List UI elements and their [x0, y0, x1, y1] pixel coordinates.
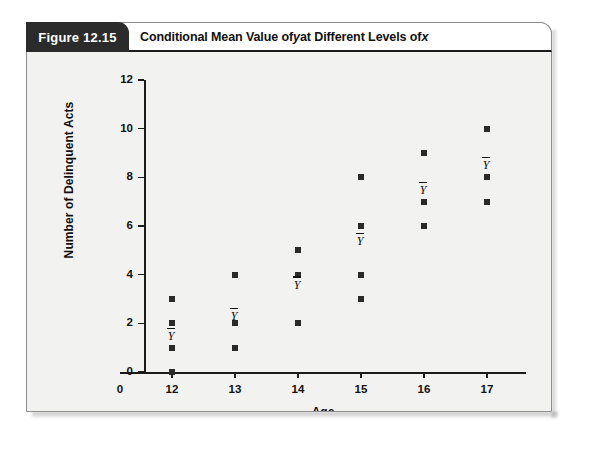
conditional-mean-marker: Y [356, 233, 364, 247]
mean-symbol-label: Y [293, 279, 301, 291]
figure-title-var-x: x [421, 30, 428, 44]
y-tick-mark [138, 128, 144, 129]
x-tick-mark [234, 372, 235, 378]
y-tick-label: 12 [107, 73, 133, 85]
data-point [358, 272, 364, 278]
y-tick-mark [138, 323, 144, 324]
mean-symbol-label: Y [167, 330, 175, 342]
figure-screenshot: Figure 12.15 Conditional Mean Value of y… [0, 0, 604, 461]
data-point [421, 150, 427, 156]
data-point [232, 272, 238, 278]
x-tick-mark [360, 372, 361, 378]
conditional-mean-marker: Y [419, 182, 427, 196]
data-point [169, 345, 175, 351]
conditional-mean-marker: Y [167, 328, 175, 342]
x-tick-label: 0 [105, 383, 135, 395]
data-point [484, 199, 490, 205]
x-tick-mark [423, 372, 424, 378]
data-point [358, 296, 364, 302]
x-tick-label: 16 [409, 383, 439, 395]
conditional-mean-marker: Y [230, 308, 238, 322]
x-tick-mark [297, 372, 298, 378]
mean-symbol-label: Y [419, 184, 427, 196]
y-tick-mark [138, 371, 144, 372]
conditional-mean-marker: Y [293, 276, 301, 290]
data-point [169, 296, 175, 302]
data-point [169, 369, 175, 375]
data-point [169, 320, 175, 326]
mean-symbol-label: Y [356, 235, 364, 247]
x-tick-label: 12 [157, 383, 187, 395]
figure-number-tab: Figure 12.15 [26, 22, 129, 52]
x-tick-mark [486, 372, 487, 378]
x-tick-label: 17 [472, 383, 502, 395]
y-axis-line [144, 80, 146, 374]
conditional-mean-marker: Y [482, 157, 490, 171]
data-point [232, 345, 238, 351]
figure-title-prefix: Conditional Mean Value of [140, 30, 293, 44]
data-point [358, 174, 364, 180]
figure-title: Conditional Mean Value of y at Different… [140, 22, 428, 52]
mean-symbol-label: Y [482, 159, 490, 171]
y-tick-label: 2 [107, 316, 133, 328]
y-tick-label: 8 [107, 170, 133, 182]
y-tick-mark [138, 225, 144, 226]
x-tick-label: 14 [283, 383, 313, 395]
x-axis-title: Age [120, 405, 526, 411]
data-point [484, 174, 490, 180]
plot-area: 024681012 0121314151617 Number of Delinq… [27, 53, 551, 411]
figure-title-middle: at Different Levels of [300, 30, 421, 44]
card-shadow-bottom [32, 412, 558, 419]
card-shadow-right [552, 30, 558, 418]
y-tick-label: 4 [107, 268, 133, 280]
y-tick-mark [138, 79, 144, 80]
data-point [358, 223, 364, 229]
x-axis-line [120, 372, 526, 374]
data-point [295, 320, 301, 326]
mean-symbol-label: Y [230, 310, 238, 322]
data-point [421, 223, 427, 229]
x-tick-label: 15 [346, 383, 376, 395]
data-point [421, 199, 427, 205]
data-point [295, 247, 301, 253]
y-tick-label: 0 [107, 365, 133, 377]
x-tick-label: 13 [220, 383, 250, 395]
y-tick-mark [138, 274, 144, 275]
figure-title-var-y: y [293, 30, 300, 44]
y-axis-title: Number of Delinquent Acts [62, 80, 76, 280]
y-tick-mark [138, 177, 144, 178]
y-tick-label: 6 [107, 219, 133, 231]
y-tick-label: 10 [107, 122, 133, 134]
data-point [484, 126, 490, 132]
